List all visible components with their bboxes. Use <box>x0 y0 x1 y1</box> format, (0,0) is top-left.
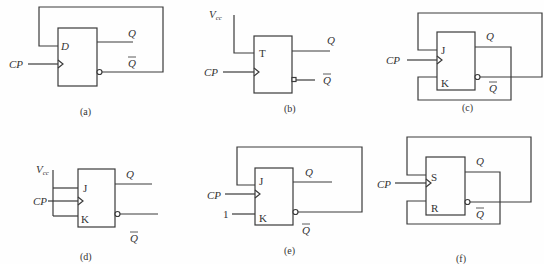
flip-flop-figure: D CP Q Q (a) Vcc T CP Q Q (b) J K CP Q Q <box>0 0 544 264</box>
caption-b: (b) <box>284 103 296 115</box>
qbar-label: Q <box>128 57 136 69</box>
constant-one-label: 1 <box>223 208 229 220</box>
caption-e: (e) <box>284 245 295 257</box>
circuit-diagrams: D CP Q Q (a) Vcc T CP Q Q (b) J K CP Q Q <box>0 0 544 264</box>
qbar-label: Q <box>489 82 497 94</box>
circuit-a: D CP Q Q (a) <box>9 7 163 118</box>
cp-label: CP <box>207 189 221 201</box>
qbar-label: Q <box>476 208 484 220</box>
cp-label: CP <box>377 178 391 190</box>
q-label: Q <box>476 155 484 167</box>
circuit-b: Vcc T CP Q Q (b) <box>204 8 335 115</box>
inverter-bubble-icon <box>97 70 102 75</box>
inverter-bubble-icon <box>293 210 298 215</box>
q-label: Q <box>327 34 335 46</box>
q-label: Q <box>126 168 134 180</box>
circuit-c: J K CP Q Q (c) <box>386 13 542 114</box>
cp-label: CP <box>204 66 218 78</box>
q-feedback-wire <box>418 47 511 100</box>
caption-d: (d) <box>80 251 92 263</box>
vcc-label: Vcc <box>36 163 50 177</box>
caption-a: (a) <box>80 106 91 118</box>
q-feedback-wire <box>407 172 500 224</box>
d-flipflop-box <box>58 28 97 86</box>
clock-edge-icon <box>437 56 442 64</box>
j-input-label: J <box>259 175 264 187</box>
circuit-e: J K CP 1 Q Q (e) <box>207 147 362 257</box>
circuit-d: Vcc J K CP Q Q (d) <box>33 163 158 263</box>
j-input-label: J <box>83 182 88 194</box>
qbar-label: Q <box>323 74 331 86</box>
t-flipflop-box <box>254 36 292 93</box>
j-input-label: J <box>441 44 446 56</box>
q-label: Q <box>128 27 136 39</box>
inverter-bubble-icon <box>115 212 120 217</box>
inverter-bubble-icon <box>475 75 480 80</box>
q-label: Q <box>305 166 313 178</box>
s-input-label: S <box>431 171 437 183</box>
caption-c: (c) <box>462 102 473 114</box>
clock-edge-icon <box>78 197 83 205</box>
k-input-label: K <box>441 77 449 89</box>
inverter-bubble-icon <box>292 78 296 82</box>
clock-edge-icon <box>254 68 259 76</box>
clock-edge-icon <box>255 190 260 198</box>
qbar-feedback-wire <box>237 147 362 212</box>
vcc-label: Vcc <box>209 8 223 22</box>
k-input-label: K <box>259 212 267 224</box>
cp-label: CP <box>386 54 400 66</box>
d-input-label: D <box>60 40 69 52</box>
k-input-label: K <box>81 213 89 225</box>
clock-edge-icon <box>58 60 63 68</box>
vcc-wire <box>234 15 254 53</box>
inverter-bubble-icon <box>465 200 470 205</box>
qbar-label: Q <box>130 232 138 244</box>
circuit-f: S R CP Q Q (f) <box>377 137 531 264</box>
cp-label: CP <box>33 195 47 207</box>
r-input-label: R <box>431 202 439 214</box>
qbar-label: Q <box>302 224 310 236</box>
caption-f: (f) <box>456 253 466 264</box>
cp-label: CP <box>9 58 23 70</box>
t-input-label: T <box>259 47 266 59</box>
q-label: Q <box>486 30 494 42</box>
